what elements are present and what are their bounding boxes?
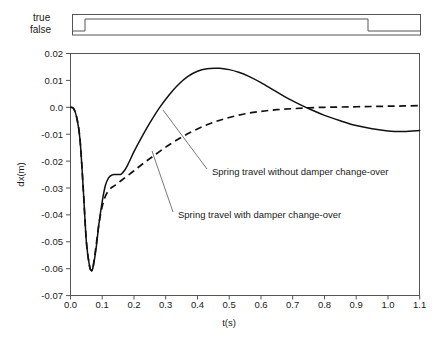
x-tick-label: 0.1 [96, 299, 109, 310]
signal-false-label: false [30, 24, 52, 35]
x-tick-label: 0.9 [350, 299, 363, 310]
signal-panel: true false [30, 12, 421, 35]
x-tick-label: 0.5 [223, 299, 236, 310]
x-axis: 0.0 0.1 0.2 0.3 0.4 0.5 0.6 0.7 0.8 0.9 … [64, 296, 426, 329]
x-tick-label: 0.4 [191, 299, 204, 310]
annotation-group: Spring travel without damper change-over… [152, 110, 388, 220]
annotation-label-with-damper-changeover: Spring travel with damper change-over [178, 209, 341, 220]
y-tick-label: -0.04 [41, 209, 63, 220]
y-tick-label: -0.05 [41, 236, 63, 247]
y-tick-label: -0.01 [41, 129, 63, 140]
signal-waveform [73, 19, 420, 31]
y-tick-label: 0.01 [45, 75, 64, 86]
x-tick-label: 1.0 [381, 299, 394, 310]
x-tick-label: 0.6 [254, 299, 267, 310]
x-axis-title: t(s) [222, 317, 236, 328]
annotation-leader-line [163, 110, 207, 169]
y-tick-label: 0.02 [45, 48, 64, 59]
chart-figure: true false 0.02 0.01 0.0 -0.01 -0.02 -0.… [0, 0, 448, 337]
annotation-label-without-damper-changeover: Spring travel without damper change-over [212, 166, 388, 177]
signal-true-label: true [33, 12, 51, 23]
x-tick-label: 0.0 [64, 299, 77, 310]
annotation-leader-line [152, 151, 173, 212]
y-tick-label: -0.02 [41, 156, 63, 167]
x-tick-label: 0.2 [127, 299, 140, 310]
y-axis-title: dx(m) [15, 162, 26, 186]
y-tick-label: -0.06 [41, 263, 63, 274]
y-tick-label: 0.0 [50, 102, 63, 113]
y-axis: 0.02 0.01 0.0 -0.01 -0.02 -0.03 -0.04 -0… [15, 48, 71, 301]
series-line-with-damper-changeover [71, 106, 420, 271]
x-tick-label: 1.1 [413, 299, 426, 310]
x-tick-label: 0.8 [318, 299, 331, 310]
x-tick-label: 0.7 [286, 299, 299, 310]
y-tick-label: -0.03 [41, 183, 63, 194]
y-tick-label: -0.07 [41, 290, 63, 301]
x-tick-label: 0.3 [159, 299, 172, 310]
chart-svg: true false 0.02 0.01 0.0 -0.01 -0.02 -0.… [0, 0, 448, 337]
